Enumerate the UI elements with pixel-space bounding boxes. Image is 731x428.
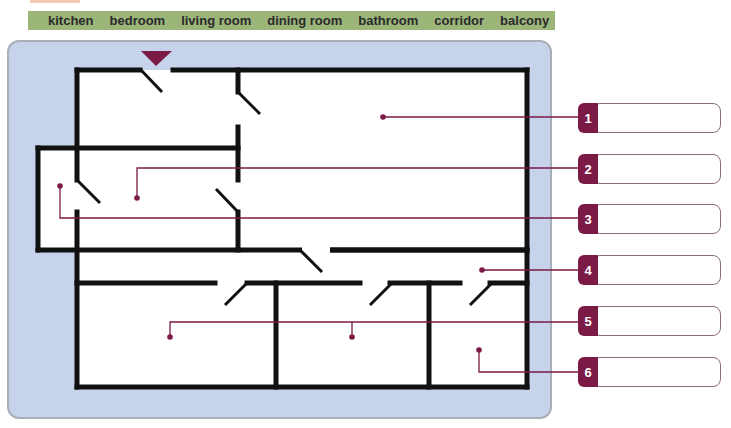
callout-number: 6 [578, 357, 598, 387]
answer-input-6[interactable] [601, 360, 715, 386]
answer-input-2[interactable] [601, 157, 715, 183]
answer-box-3[interactable] [592, 204, 721, 234]
callout-2: 2 [578, 154, 720, 184]
answer-box-1[interactable] [592, 103, 721, 133]
callout-6: 6 [578, 357, 720, 387]
answer-box-6[interactable] [592, 357, 721, 387]
callout-number: 3 [578, 204, 598, 234]
callout-1: 1 [578, 103, 720, 133]
callout-number: 4 [578, 255, 598, 285]
callout-number: 1 [578, 103, 598, 133]
answer-box-5[interactable] [592, 306, 721, 336]
callout-4: 4 [578, 255, 720, 285]
answer-input-4[interactable] [601, 258, 715, 284]
callout-number: 2 [578, 154, 598, 184]
door-gap [302, 246, 330, 254]
answer-box-2[interactable] [592, 154, 721, 184]
answer-input-5[interactable] [601, 309, 715, 335]
answer-box-4[interactable] [592, 255, 721, 285]
callout-number: 5 [578, 306, 598, 336]
answer-input-3[interactable] [601, 207, 715, 233]
callout-5: 5 [578, 306, 720, 336]
callout-3: 3 [578, 204, 720, 234]
answer-input-1[interactable] [601, 106, 715, 132]
entrance-arrow-icon [141, 51, 172, 66]
